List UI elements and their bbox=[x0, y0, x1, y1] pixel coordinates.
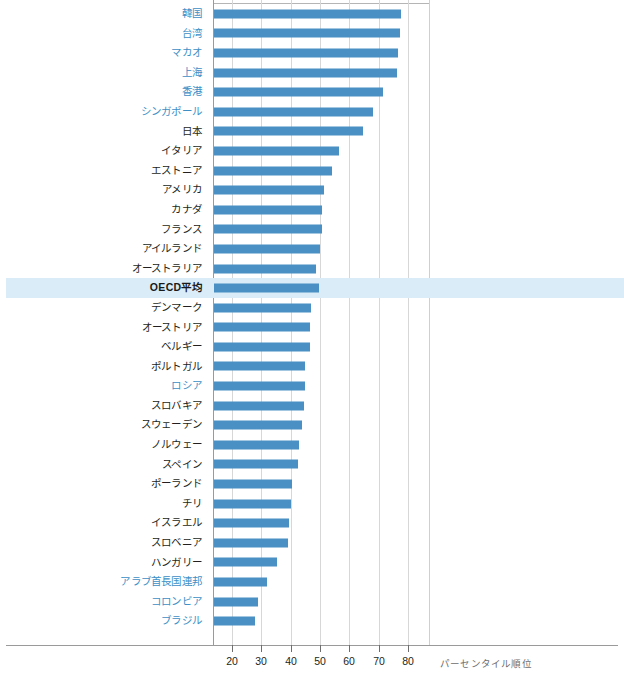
category-label: マカオ bbox=[0, 43, 208, 63]
category-label: スウェーデン bbox=[0, 415, 208, 435]
bar bbox=[214, 88, 383, 97]
category-label: シンガポール bbox=[0, 102, 208, 122]
category-label: イスラエル bbox=[0, 513, 208, 533]
x-tick-80 bbox=[408, 645, 409, 652]
bar-track bbox=[214, 337, 624, 357]
bar-row: オーストリア bbox=[0, 318, 624, 338]
bar-row: ブラジル bbox=[0, 611, 624, 631]
category-label: ノルウェー bbox=[0, 435, 208, 455]
category-label: ポーランド bbox=[0, 474, 208, 494]
bar-track bbox=[214, 474, 624, 494]
bar-row: ポーランド bbox=[0, 474, 624, 494]
bar bbox=[214, 9, 401, 18]
bar-track bbox=[214, 357, 624, 377]
bar-row: スペイン bbox=[0, 455, 624, 475]
bar bbox=[214, 107, 373, 116]
category-label: 上海 bbox=[0, 63, 208, 83]
bar-track bbox=[214, 318, 624, 338]
bar-track bbox=[214, 43, 624, 63]
bar-row: マカオ bbox=[0, 43, 624, 63]
x-tick-label-30: 30 bbox=[255, 655, 267, 667]
category-label: オーストリア bbox=[0, 318, 208, 338]
category-label: エストニア bbox=[0, 161, 208, 181]
category-label: チリ bbox=[0, 494, 208, 514]
bar-track bbox=[214, 376, 624, 396]
bar bbox=[214, 382, 305, 391]
category-label: コロンビア bbox=[0, 592, 208, 612]
category-label: ポルトガル bbox=[0, 357, 208, 377]
bar-row: エストニア bbox=[0, 161, 624, 181]
bar bbox=[214, 362, 305, 371]
x-tick-label-80: 80 bbox=[402, 655, 414, 667]
bar-track bbox=[214, 298, 624, 318]
category-label: イタリア bbox=[0, 141, 208, 161]
bar bbox=[214, 225, 322, 234]
bar bbox=[214, 166, 332, 175]
bar-row: スウェーデン bbox=[0, 415, 624, 435]
x-axis: パーセンタイル順位 20304050607080 bbox=[0, 645, 624, 691]
bar-track bbox=[214, 180, 624, 200]
bar-row: コロンビア bbox=[0, 592, 624, 612]
x-tick-60 bbox=[349, 645, 350, 652]
bar-row: ロシア bbox=[0, 376, 624, 396]
x-tick-40 bbox=[291, 645, 292, 652]
bar-row: 上海 bbox=[0, 63, 624, 83]
category-label: フランス bbox=[0, 220, 208, 240]
bar-track bbox=[214, 455, 624, 475]
category-label: スペイン bbox=[0, 455, 208, 475]
bar-row: デンマーク bbox=[0, 298, 624, 318]
bar-track bbox=[214, 4, 624, 24]
bar-track bbox=[214, 82, 624, 102]
bar-track bbox=[214, 141, 624, 161]
bar bbox=[214, 499, 291, 508]
bar-row: チリ bbox=[0, 494, 624, 514]
bar bbox=[214, 538, 288, 547]
bar-rows: 韓国台湾マカオ上海香港シンガポール日本イタリアエストニアアメリカカナダフランスア… bbox=[0, 4, 624, 631]
bar bbox=[214, 558, 277, 567]
bar-track bbox=[214, 533, 624, 553]
bar bbox=[214, 303, 311, 312]
bar-row: 台湾 bbox=[0, 24, 624, 44]
category-label: カナダ bbox=[0, 200, 208, 220]
bar-track bbox=[214, 220, 624, 240]
bar-row: 香港 bbox=[0, 82, 624, 102]
category-label: 日本 bbox=[0, 122, 208, 142]
bar-row: OECD平均 bbox=[0, 278, 624, 298]
bar-track bbox=[214, 259, 624, 279]
bar bbox=[214, 29, 400, 38]
bar bbox=[214, 284, 319, 293]
x-tick-label-50: 50 bbox=[314, 655, 326, 667]
bar-row: オーストラリア bbox=[0, 259, 624, 279]
category-label: 香港 bbox=[0, 82, 208, 102]
bar-track bbox=[214, 553, 624, 573]
bar bbox=[214, 578, 267, 587]
bar-track bbox=[214, 494, 624, 514]
bar-row: イスラエル bbox=[0, 513, 624, 533]
category-label: スロベニア bbox=[0, 533, 208, 553]
x-tick-label-70: 70 bbox=[373, 655, 385, 667]
bar-row: ハンガリー bbox=[0, 553, 624, 573]
bar-track bbox=[214, 611, 624, 631]
bar-track bbox=[214, 102, 624, 122]
category-label: 韓国 bbox=[0, 4, 208, 24]
bar bbox=[214, 205, 322, 214]
bar-row: フランス bbox=[0, 220, 624, 240]
bar bbox=[214, 617, 255, 626]
bar bbox=[214, 323, 310, 332]
x-axis-title: パーセンタイル順位 bbox=[440, 656, 532, 670]
bar bbox=[214, 421, 302, 430]
bar-track bbox=[214, 200, 624, 220]
category-label: ハンガリー bbox=[0, 553, 208, 573]
bar bbox=[214, 127, 363, 136]
bar bbox=[214, 48, 398, 57]
bar bbox=[214, 597, 258, 606]
bar-track bbox=[214, 239, 624, 259]
category-label: ロシア bbox=[0, 376, 208, 396]
bar-track bbox=[214, 415, 624, 435]
x-tick-50 bbox=[320, 645, 321, 652]
category-label: デンマーク bbox=[0, 298, 208, 318]
x-tick-20 bbox=[232, 645, 233, 652]
x-tick-label-40: 40 bbox=[285, 655, 297, 667]
bar-track bbox=[214, 435, 624, 455]
x-tick-label-60: 60 bbox=[343, 655, 355, 667]
